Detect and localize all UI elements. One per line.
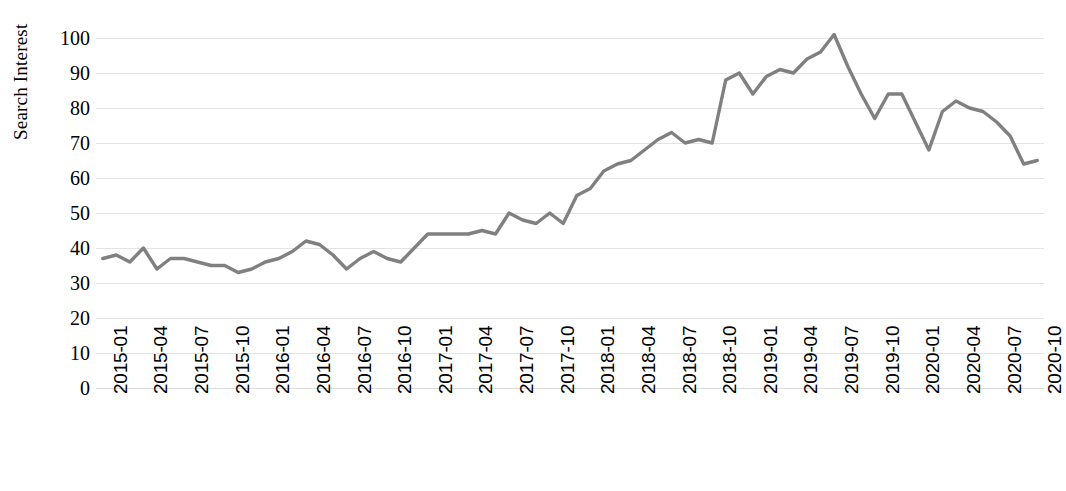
x-tick-label: 2015-04 bbox=[150, 326, 172, 394]
x-tick-label: 2020-01 bbox=[922, 326, 944, 394]
x-tick-label: 2017-01 bbox=[435, 326, 457, 394]
x-tick-label: 2020-10 bbox=[1044, 326, 1066, 394]
x-tick-label: 2019-04 bbox=[800, 326, 822, 394]
x-tick-label: 2018-07 bbox=[679, 326, 701, 394]
x-tick-label: 2015-01 bbox=[110, 326, 132, 394]
x-tick-label: 2016-07 bbox=[354, 326, 376, 394]
x-tick-label: 2018-04 bbox=[638, 326, 660, 394]
x-tick-label: 2016-04 bbox=[313, 326, 335, 394]
x-tick-label: 2018-01 bbox=[597, 326, 619, 394]
x-tick-label: 2017-04 bbox=[475, 326, 497, 394]
x-tick-label: 2016-01 bbox=[272, 326, 294, 394]
x-tick-label: 2019-07 bbox=[841, 326, 863, 394]
x-tick-label: 2017-10 bbox=[557, 326, 579, 394]
x-tick-label: 2020-07 bbox=[1004, 326, 1026, 394]
x-tick-label: 2019-10 bbox=[882, 326, 904, 394]
x-tick-label: 2017-07 bbox=[516, 326, 538, 394]
x-tick-label: 2016-10 bbox=[394, 326, 416, 394]
x-tick-label: 2015-10 bbox=[232, 326, 254, 394]
x-tick-label: 2018-10 bbox=[719, 326, 741, 394]
x-tick-label: 2020-04 bbox=[963, 326, 985, 394]
x-tick-label: 2019-01 bbox=[760, 326, 782, 394]
x-tick-label: 2015-07 bbox=[191, 326, 213, 394]
